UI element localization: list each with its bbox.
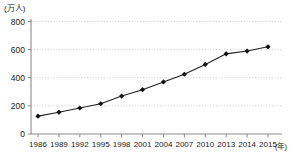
y-axis-labels-group: 0200400600800	[11, 17, 25, 140]
line-chart-plot: 0200400600800 19861989199219951998200120…	[0, 0, 295, 164]
data-point-marker	[203, 62, 208, 67]
x-axis-tick-label: 1992	[71, 140, 89, 149]
x-axis-tick-label: 2007	[175, 140, 193, 149]
gridlines-group	[31, 22, 282, 106]
data-point-marker	[35, 114, 40, 119]
data-point-marker	[56, 110, 61, 115]
data-point-marker	[224, 51, 229, 56]
x-axis-tick-label: 2014	[238, 140, 256, 149]
x-axis-labels-group: 1986198919921995199820012004200720102013…	[29, 140, 277, 149]
data-point-markers-group	[35, 44, 270, 119]
x-axis-tick-label: 1989	[50, 140, 68, 149]
y-axis-tick-label: 0	[20, 129, 25, 139]
x-axis-tick-label: 1995	[92, 140, 110, 149]
data-point-marker	[140, 87, 145, 92]
y-axis-tick-label: 800	[11, 17, 25, 27]
x-axis-tick-label: 1986	[29, 140, 47, 149]
x-axis-tick-label: 2001	[134, 140, 152, 149]
data-point-marker	[244, 48, 249, 53]
y-axis-tick-label: 600	[11, 45, 25, 55]
chart-container: (万人) 0200400600800 198619891992199519982…	[0, 0, 295, 164]
x-axis-tick-label: 1998	[113, 140, 131, 149]
x-axis-tick-label: 2010	[196, 140, 214, 149]
data-point-marker	[161, 79, 166, 84]
x-axis-tick-label: 2004	[155, 140, 173, 149]
y-axis-tick-label: 200	[11, 101, 25, 111]
data-point-marker	[182, 72, 187, 77]
data-point-marker	[265, 44, 270, 49]
x-axis-tick-label: 2013	[217, 140, 235, 149]
y-axis-tick-label: 400	[11, 73, 25, 83]
data-point-marker	[119, 93, 124, 98]
x-axis-unit-label: (年)	[275, 140, 287, 151]
